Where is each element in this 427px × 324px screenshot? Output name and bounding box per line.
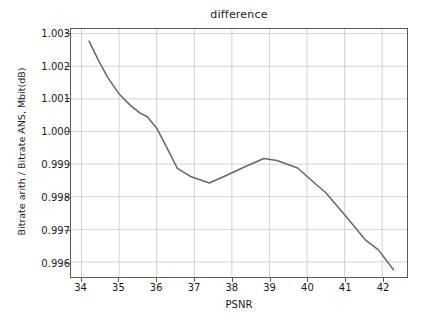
series-polyline — [89, 41, 393, 270]
x-tick-label: 39 — [250, 282, 290, 293]
chart-figure: difference Bitrate arith / Bitrate ANS, … — [0, 0, 427, 324]
x-axis-label: PSNR — [70, 299, 408, 310]
x-tick-label: 41 — [325, 282, 365, 293]
y-axis-tick-marks — [0, 28, 70, 278]
data-series-line — [71, 29, 407, 277]
x-tick-label: 34 — [61, 282, 101, 293]
x-tick-label: 35 — [98, 282, 138, 293]
chart-title: difference — [70, 8, 408, 21]
x-tick-label: 38 — [212, 282, 252, 293]
x-tick-label: 37 — [174, 282, 214, 293]
x-tick-label: 36 — [136, 282, 176, 293]
x-tick-label: 40 — [287, 282, 327, 293]
x-tick-label: 42 — [363, 282, 403, 293]
plot-area — [70, 28, 408, 278]
x-axis-tick-labels: 343536373839404142 — [70, 282, 408, 298]
